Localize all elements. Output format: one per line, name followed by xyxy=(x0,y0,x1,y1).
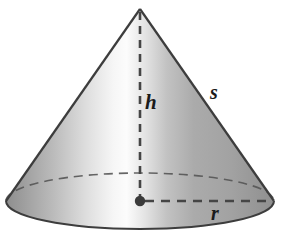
radius-label: r xyxy=(211,203,219,223)
cone-geometry-figure: h s r xyxy=(0,0,286,239)
slant-height-label: s xyxy=(210,82,218,102)
cone-illustration xyxy=(0,0,286,239)
base-center-dot xyxy=(135,196,145,206)
height-label: h xyxy=(145,92,157,113)
